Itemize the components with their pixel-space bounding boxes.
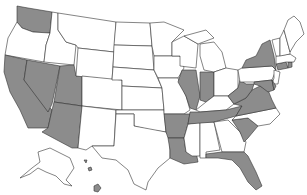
- state-PA[interactable]: [238, 66, 276, 82]
- state-SD[interactable]: [113, 45, 154, 70]
- state-CO[interactable]: [82, 76, 122, 110]
- state-NM[interactable]: [78, 106, 116, 150]
- state-WY[interactable]: [76, 48, 114, 80]
- state-IA[interactable]: [154, 56, 184, 78]
- state-AK[interactable]: [20, 148, 74, 186]
- state-RI[interactable]: [288, 62, 292, 68]
- state-ND[interactable]: [114, 22, 152, 46]
- state-FL[interactable]: [206, 152, 262, 190]
- state-HI[interactable]: [84, 160, 101, 192]
- us-states-map: [0, 0, 307, 195]
- state-NY[interactable]: [242, 40, 276, 70]
- state-KS[interactable]: [122, 86, 164, 110]
